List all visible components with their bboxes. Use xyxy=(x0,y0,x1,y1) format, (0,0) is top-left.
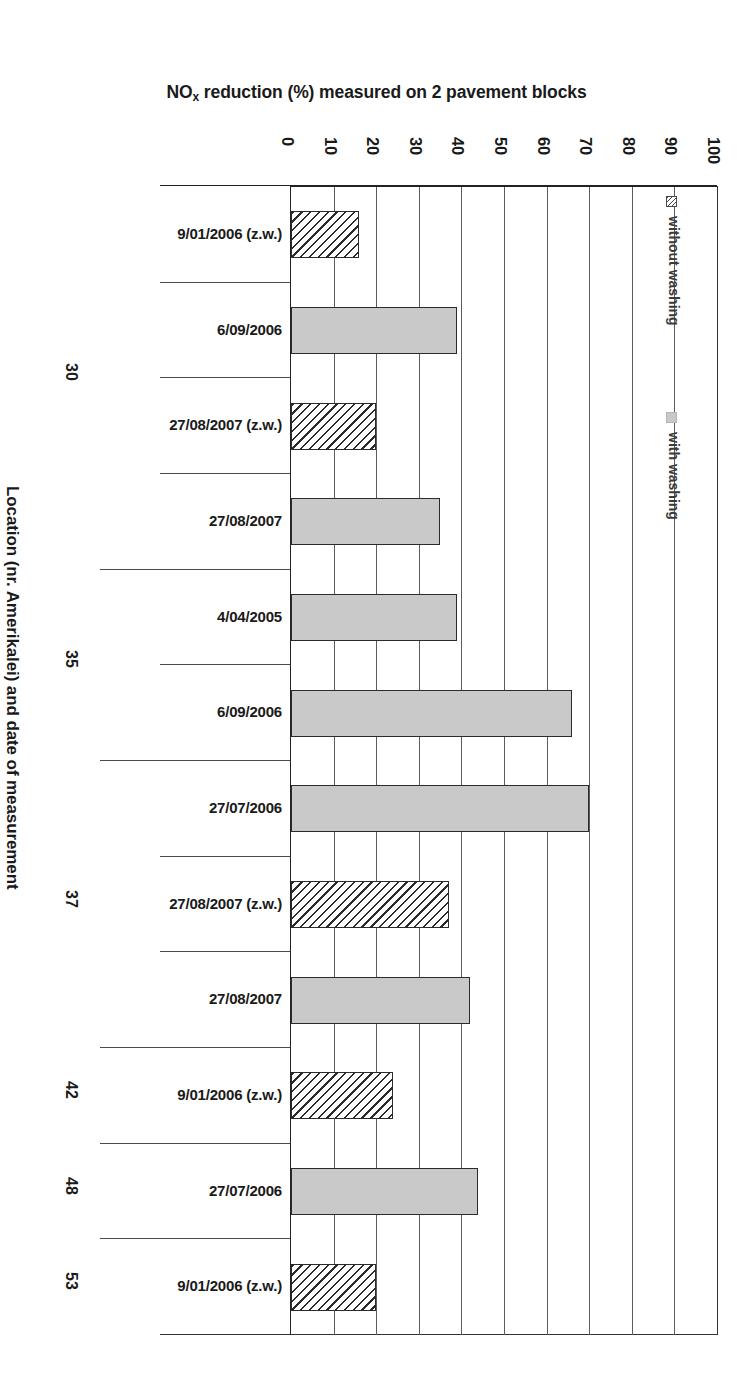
legend-swatch-hatched-icon xyxy=(666,196,677,207)
location-group-48: 48 xyxy=(62,1177,80,1195)
bar-6 xyxy=(291,785,589,832)
chart-figure: NOx reduction (%) measured on 2 pavement… xyxy=(0,0,753,1389)
bar-2 xyxy=(291,403,376,450)
band-separator-6 xyxy=(100,760,290,761)
band-separator-3 xyxy=(160,473,290,474)
category-axis-title: Location (nr. Amerikalei) and date of me… xyxy=(2,486,22,890)
category-label-0: 9/01/2006 (z.w.) xyxy=(100,225,282,242)
legend-label-with-washing: with washing xyxy=(666,432,682,520)
category-label-4: 4/04/2005 xyxy=(100,608,282,625)
chart-title-suffix: reduction (%) measured on 2 pavement blo… xyxy=(199,82,587,102)
category-label-3: 27/08/2007 xyxy=(100,512,282,529)
location-group-35: 35 xyxy=(62,650,80,668)
category-label-5: 6/09/2006 xyxy=(100,703,282,720)
location-group-42: 42 xyxy=(62,1081,80,1099)
bar-1 xyxy=(291,307,457,354)
category-label-7: 27/08/2007 (z.w.) xyxy=(100,895,282,912)
band-separator-11 xyxy=(100,1238,290,1239)
band-separator-7 xyxy=(160,856,290,857)
category-label-8: 27/08/2007 xyxy=(100,990,282,1007)
category-label-1: 6/09/2006 xyxy=(100,321,282,338)
band-separator-9 xyxy=(100,1047,290,1048)
band-separator-1 xyxy=(160,282,290,283)
gridline-80 xyxy=(632,187,633,1335)
band-separator-5 xyxy=(160,664,290,665)
value-tick-90: 90 xyxy=(661,137,680,155)
bar-10 xyxy=(291,1168,478,1215)
chart-title: NOx reduction (%) measured on 2 pavement… xyxy=(0,82,753,103)
value-tick-50: 50 xyxy=(491,137,510,155)
category-label-10: 27/07/2006 xyxy=(100,1182,282,1199)
bar-5 xyxy=(291,690,572,737)
band-separator-4 xyxy=(100,569,290,570)
gridline-70 xyxy=(589,187,590,1335)
bar-3 xyxy=(291,498,440,545)
chart-legend: without washing with washing xyxy=(660,196,712,616)
chart-title-subscript: x xyxy=(192,90,199,104)
location-group-37: 37 xyxy=(62,890,80,908)
value-tick-70: 70 xyxy=(576,137,595,155)
gridline-50 xyxy=(504,187,505,1335)
band-separator-8 xyxy=(160,951,290,952)
bar-0 xyxy=(291,211,359,258)
category-label-6: 27/07/2006 xyxy=(100,799,282,816)
category-label-9: 9/01/2006 (z.w.) xyxy=(100,1086,282,1103)
chart-title-prefix: NO xyxy=(166,82,192,102)
value-tick-100: 100 xyxy=(704,137,723,164)
bar-11 xyxy=(291,1264,376,1311)
band-separator-10 xyxy=(100,1143,290,1144)
gridline-20 xyxy=(376,187,377,1335)
value-tick-80: 80 xyxy=(619,137,638,155)
band-separator-2 xyxy=(160,377,290,378)
gridline-60 xyxy=(547,187,548,1335)
category-label-11: 9/01/2006 (z.w.) xyxy=(100,1277,282,1294)
bar-8 xyxy=(291,977,470,1024)
value-tick-0: 0 xyxy=(278,137,297,146)
legend-swatch-gray-icon xyxy=(666,412,677,423)
bar-9 xyxy=(291,1072,393,1119)
gridline-10 xyxy=(334,187,335,1335)
value-tick-40: 40 xyxy=(448,137,467,155)
value-tick-10: 10 xyxy=(321,137,340,155)
location-group-53: 53 xyxy=(62,1272,80,1290)
value-tick-20: 20 xyxy=(363,137,382,155)
location-group-30: 30 xyxy=(62,363,80,381)
gridline-40 xyxy=(461,187,462,1335)
category-label-2: 27/08/2007 (z.w.) xyxy=(100,416,282,433)
plot-area xyxy=(290,186,718,1335)
gridline-30 xyxy=(419,187,420,1335)
value-tick-60: 60 xyxy=(534,137,553,155)
bar-7 xyxy=(291,881,449,928)
value-tick-30: 30 xyxy=(406,137,425,155)
bar-4 xyxy=(291,594,457,641)
legend-label-without-washing: without washing xyxy=(666,216,682,326)
